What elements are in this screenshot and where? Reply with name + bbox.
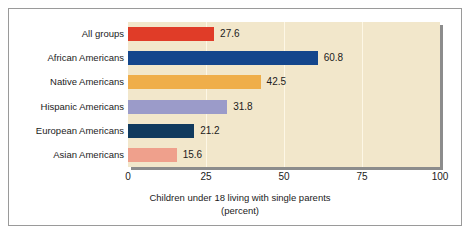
category-label: Native Americans — [6, 70, 124, 94]
category-label: All groups — [6, 22, 124, 46]
x-axis-caption: Children under 18 living with single par… — [60, 191, 420, 217]
value-label: 21.2 — [200, 119, 219, 143]
category-axis-labels: All groupsAfrican AmericansNative Americ… — [4, 22, 124, 167]
x-tick-label: 0 — [125, 171, 131, 182]
value-label: 60.8 — [324, 46, 343, 70]
value-label: 31.8 — [233, 95, 252, 119]
x-tick-label: 75 — [356, 171, 367, 182]
figure: All groupsAfrican AmericansNative Americ… — [0, 0, 472, 236]
x-axis-caption-line2: (percent) — [60, 204, 420, 217]
category-label: Asian Americans — [6, 143, 124, 167]
x-axis-caption-line1: Children under 18 living with single par… — [60, 191, 420, 204]
value-label: 42.5 — [267, 70, 286, 94]
category-label: Hispanic Americans — [6, 95, 124, 119]
bar-value-labels: 27.660.842.531.821.215.6 — [128, 22, 468, 167]
x-tick-label: 25 — [200, 171, 211, 182]
category-label: African Americans — [6, 46, 124, 70]
value-label: 27.6 — [220, 22, 239, 46]
x-tick-label: 50 — [278, 171, 289, 182]
x-tick-label: 100 — [432, 171, 449, 182]
category-label: European Americans — [6, 119, 124, 143]
value-label: 15.6 — [183, 143, 202, 167]
x-axis-tick-labels: 0255075100 — [128, 171, 440, 187]
